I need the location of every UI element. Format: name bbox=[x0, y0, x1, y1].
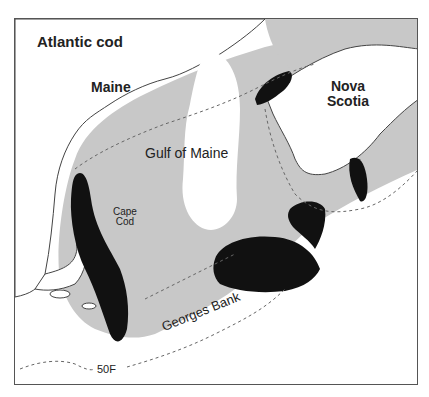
label-cape-cod-line2: Cod bbox=[113, 217, 137, 227]
label-nova-scotia-line2: Scotia bbox=[327, 94, 369, 109]
map-canvas bbox=[15, 19, 418, 385]
label-nova-scotia-line1: Nova bbox=[327, 79, 369, 94]
map-frame: Atlantic cod Maine Nova Scotia Gulf of M… bbox=[14, 18, 418, 385]
label-maine: Maine bbox=[91, 79, 131, 95]
label-cape-cod: Cape Cod bbox=[113, 207, 137, 227]
map-title: Atlantic cod bbox=[37, 33, 123, 50]
label-nova-scotia: Nova Scotia bbox=[327, 79, 369, 109]
label-gulf-of-maine: Gulf of Maine bbox=[145, 145, 228, 161]
label-isotherm-50f: 50F bbox=[97, 363, 116, 375]
